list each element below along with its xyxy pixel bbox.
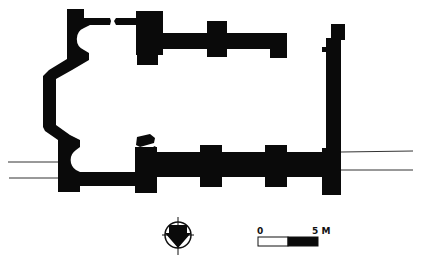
scale-bar: 0 5 M (257, 226, 330, 246)
right-wall-notch (322, 47, 328, 52)
wall-fragment (136, 134, 155, 147)
scale-start-label: 0 (257, 226, 263, 236)
upper-block-lower (137, 55, 158, 65)
scale-end-label: 5 M (312, 226, 330, 236)
upper-wall-stub (283, 48, 287, 52)
lower-pier-1 (135, 147, 157, 193)
right-wall-cap (331, 24, 345, 40)
lower-right-base (322, 148, 341, 195)
extension-lines-left (8, 162, 60, 178)
lower-pier-3 (265, 145, 287, 187)
upper-pier-2 (270, 33, 287, 58)
extension-lines-right (341, 151, 413, 170)
scale-segment-white (258, 237, 288, 246)
upper-pier-1 (207, 21, 227, 57)
upper-block (136, 11, 163, 55)
floor-plan: 0 5 M (0, 0, 422, 267)
upper-left-pier (43, 9, 111, 192)
lower-wall-left (80, 172, 138, 186)
lower-wall (135, 152, 327, 177)
scale-segment-black (288, 237, 318, 246)
lower-pier-2 (200, 145, 222, 187)
walls (43, 9, 345, 195)
north-arrow-icon (162, 217, 194, 255)
